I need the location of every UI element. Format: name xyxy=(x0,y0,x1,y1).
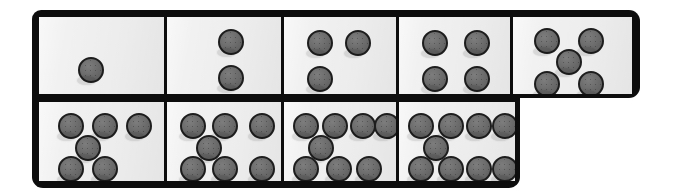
pip xyxy=(408,156,434,181)
pip xyxy=(78,57,104,83)
domino-tile-4[interactable] xyxy=(396,17,510,94)
pip xyxy=(466,156,492,181)
pip xyxy=(307,66,333,92)
pip xyxy=(92,156,118,181)
pip xyxy=(218,65,244,91)
pip xyxy=(356,156,382,181)
pip xyxy=(58,156,84,181)
pip xyxy=(464,66,490,92)
pip xyxy=(438,156,464,181)
pip xyxy=(212,113,238,139)
domino-tile-8[interactable] xyxy=(281,102,396,181)
pip xyxy=(578,28,604,54)
pip xyxy=(492,156,515,181)
pip xyxy=(92,113,118,139)
domino-tile-3[interactable] xyxy=(281,17,396,94)
pip xyxy=(422,30,448,56)
pip xyxy=(534,71,560,94)
pip xyxy=(326,156,352,181)
tile-strip-canvas xyxy=(0,0,673,195)
domino-tile-9[interactable] xyxy=(396,102,515,181)
pip xyxy=(345,30,371,56)
domino-tile-5[interactable] xyxy=(510,17,632,94)
pip xyxy=(218,29,244,55)
pip xyxy=(464,30,490,56)
pip xyxy=(556,49,582,75)
pip xyxy=(374,113,396,139)
pip xyxy=(534,28,560,54)
domino-tile-7[interactable] xyxy=(164,102,281,181)
domino-tile-2[interactable] xyxy=(164,17,281,94)
pip xyxy=(212,156,238,181)
pip xyxy=(126,113,152,139)
pip xyxy=(438,113,464,139)
pip xyxy=(249,113,275,139)
pip xyxy=(180,156,206,181)
pip xyxy=(422,66,448,92)
pip xyxy=(58,113,84,139)
domino-tile-1[interactable] xyxy=(39,17,164,94)
pip xyxy=(466,113,492,139)
bottom-row xyxy=(32,98,520,188)
pip xyxy=(180,113,206,139)
pip xyxy=(307,30,333,56)
pip xyxy=(578,71,604,94)
pip xyxy=(293,156,319,181)
domino-tile-6[interactable] xyxy=(39,102,164,181)
top-row xyxy=(32,10,640,98)
pip xyxy=(492,113,515,139)
pip xyxy=(249,156,275,181)
